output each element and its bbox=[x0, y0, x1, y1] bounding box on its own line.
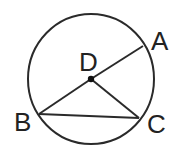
label-D: D bbox=[79, 47, 98, 77]
segment-BC bbox=[39, 114, 139, 118]
label-A: A bbox=[151, 26, 169, 56]
label-C: C bbox=[147, 109, 166, 139]
circle-diagram: D A B C bbox=[0, 0, 178, 156]
segment-AD bbox=[91, 46, 143, 79]
label-B: B bbox=[14, 107, 31, 137]
segment-DB bbox=[39, 79, 91, 114]
segment-DC bbox=[91, 79, 139, 118]
